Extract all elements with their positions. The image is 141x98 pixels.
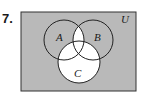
- label-universe: U: [121, 13, 130, 25]
- label-b: B: [94, 31, 101, 43]
- venn-diagram: A B C U: [0, 0, 141, 98]
- label-a: A: [55, 31, 63, 43]
- label-c: C: [74, 67, 82, 79]
